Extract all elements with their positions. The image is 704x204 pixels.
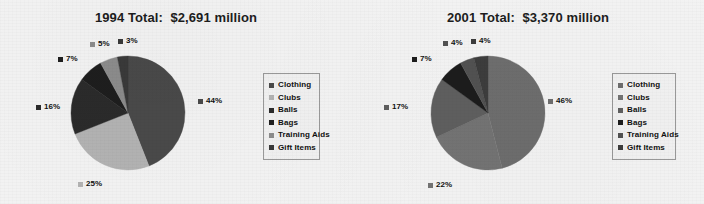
legend-swatch-gift-items-2001 [618, 145, 623, 150]
pie-label-text-balls-2001: 17% [392, 103, 408, 111]
legend-label-clothing-1994: Clothing [278, 81, 311, 89]
legend-swatch-gift-items-1994 [269, 145, 274, 150]
legend-swatch-bags-1994 [269, 120, 274, 125]
pie-label-text-training-aids-2001: 4% [451, 39, 463, 47]
legend-label-balls-1994: Balls [278, 106, 298, 114]
pie-label-swatch-clubs-1994 [78, 182, 83, 187]
pie-label-clubs-1994: 25% [78, 180, 102, 188]
pie-label-text-clubs-1994: 25% [86, 180, 102, 188]
pie-label-text-gift-items-2001: 4% [479, 37, 491, 45]
pie-label-swatch-bags-2001 [412, 57, 417, 62]
pie-label-text-bags-1994: 7% [66, 55, 78, 63]
legend-swatch-clubs-2001 [618, 95, 623, 100]
pie-chart-panel-2001: 2001 Total: $3,370 million 46% 22% 17% 7… [352, 0, 704, 204]
pie-label-training-aids-2001: 4% [443, 39, 463, 47]
legend-1994: Clothing Clubs Balls Bags Training Aids … [263, 73, 320, 160]
pie-label-text-training-aids-1994: 5% [98, 40, 110, 48]
pie-label-swatch-clothing-1994 [198, 99, 203, 104]
legend-swatch-clothing-2001 [618, 83, 623, 88]
pie-label-bags-1994: 7% [58, 55, 78, 63]
legend-item-training-aids-2001[interactable]: Training Aids [618, 129, 669, 142]
pie-label-swatch-gift-items-2001 [471, 39, 476, 44]
legend-item-bags-2001[interactable]: Bags [618, 117, 669, 130]
legend-item-bags-1994[interactable]: Bags [269, 117, 313, 130]
pie-label-text-bags-2001: 7% [420, 55, 432, 63]
pie-label-swatch-training-aids-1994 [90, 42, 95, 47]
pie-label-clubs-2001: 22% [428, 181, 452, 189]
pie-label-swatch-clubs-2001 [428, 183, 433, 188]
pie-label-text-gift-items-1994: 3% [126, 37, 138, 45]
legend-label-bags-1994: Bags [278, 119, 298, 127]
legend-label-training-aids-1994: Training Aids [278, 131, 330, 139]
legend-item-clothing-1994[interactable]: Clothing [269, 79, 313, 92]
legend-label-clubs-2001: Clubs [627, 94, 650, 102]
pie-label-balls-1994: 16% [36, 103, 60, 111]
pie-label-gift-items-1994: 3% [118, 37, 138, 45]
legend-swatch-clubs-1994 [269, 95, 274, 100]
legend-swatch-clothing-1994 [269, 83, 274, 88]
legend-swatch-balls-2001 [618, 108, 623, 113]
pie-label-text-clothing-2001: 46% [556, 97, 572, 105]
pie-label-balls-2001: 17% [384, 103, 408, 111]
pie-label-text-balls-1994: 16% [44, 103, 60, 111]
legend-label-clothing-2001: Clothing [627, 81, 660, 89]
legend-item-clubs-1994[interactable]: Clubs [269, 92, 313, 105]
legend-2001: Clothing Clubs Balls Bags Training Aids … [612, 73, 676, 160]
pie-slices-2001 [431, 56, 545, 170]
pie-label-swatch-training-aids-2001 [443, 41, 448, 46]
legend-item-gift-items-2001[interactable]: Gift Items [618, 142, 669, 155]
legend-label-training-aids-2001: Training Aids [627, 131, 679, 139]
pie-chart-panel-1994: 1994 Total: $2,691 million 44% 25% 16% 7… [0, 0, 352, 204]
pie-label-bags-2001: 7% [412, 55, 432, 63]
pie-label-swatch-bags-1994 [58, 57, 63, 62]
legend-label-clubs-1994: Clubs [278, 94, 301, 102]
legend-swatch-training-aids-2001 [618, 133, 623, 138]
pie-label-swatch-clothing-2001 [548, 99, 553, 104]
pie-label-gift-items-2001: 4% [471, 37, 491, 45]
legend-item-clubs-2001[interactable]: Clubs [618, 92, 669, 105]
legend-item-balls-1994[interactable]: Balls [269, 104, 313, 117]
legend-item-training-aids-1994[interactable]: Training Aids [269, 129, 313, 142]
legend-item-clothing-2001[interactable]: Clothing [618, 79, 669, 92]
pie-slices-1994 [71, 56, 185, 170]
legend-label-balls-2001: Balls [627, 106, 647, 114]
pie-label-swatch-balls-2001 [384, 105, 389, 110]
pie-label-text-clothing-1994: 44% [206, 97, 222, 105]
legend-item-gift-items-1994[interactable]: Gift Items [269, 142, 313, 155]
pie-label-text-clubs-2001: 22% [436, 181, 452, 189]
pie-label-training-aids-1994: 5% [90, 40, 110, 48]
legend-label-gift-items-2001: Gift Items [627, 144, 665, 152]
pie-label-clothing-1994: 44% [198, 97, 222, 105]
pie-label-clothing-2001: 46% [548, 97, 572, 105]
legend-swatch-balls-1994 [269, 108, 274, 113]
legend-label-bags-2001: Bags [627, 119, 647, 127]
pie-label-swatch-gift-items-1994 [118, 39, 123, 44]
pie-label-swatch-balls-1994 [36, 105, 41, 110]
legend-swatch-bags-2001 [618, 120, 623, 125]
legend-swatch-training-aids-1994 [269, 133, 274, 138]
legend-item-balls-2001[interactable]: Balls [618, 104, 669, 117]
legend-label-gift-items-1994: Gift Items [278, 144, 316, 152]
